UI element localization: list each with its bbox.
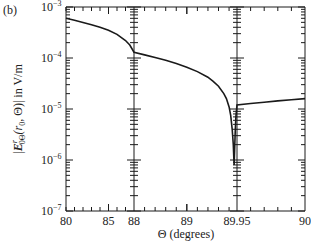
svg-text:|Er0Θ(r0, Θ)| in V/m: |Er0Θ(r0, Θ)| in V/m [10, 64, 27, 154]
y-tick-label: 10−3 [41, 0, 62, 14]
x-tick-label: 85 [103, 214, 115, 228]
y-tick-labels: 10−310−410−510−610−7 [41, 0, 62, 218]
data-series-line [66, 18, 305, 165]
x-tick-label: 80 [60, 214, 72, 228]
x-axis-label: Θ (degrees) [158, 227, 214, 241]
y-tick-label: 10−7 [41, 203, 62, 218]
plot-axes [66, 7, 305, 211]
y-tick-label: 10−4 [41, 50, 62, 65]
y-tick-label: 10−5 [41, 101, 62, 116]
y-axis-label: |Er0Θ(r0, Θ)| in V/m [10, 64, 27, 154]
x-tick-label: 90 [299, 214, 311, 228]
x-tick-labels: 8085888989.9590 [60, 214, 311, 228]
x-tick-label: 89.95 [224, 214, 251, 228]
panel-label: (b) [3, 3, 17, 17]
chart-figure: (b) 10−310−410−510−610−7 8085888989.9590… [0, 0, 311, 246]
y-tick-label: 10−6 [41, 152, 62, 167]
x-tick-label: 88 [128, 214, 140, 228]
x-tick-label: 89 [181, 214, 193, 228]
